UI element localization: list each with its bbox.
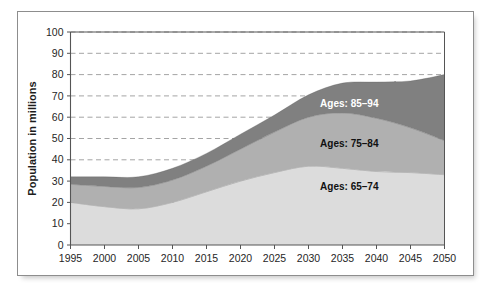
x-tick-label: 2035 <box>331 252 355 264</box>
y-tick-label: 50 <box>52 132 64 144</box>
x-tick-label: 2040 <box>365 252 389 264</box>
x-tick-label: 2005 <box>127 252 151 264</box>
series-label-3: Ages: 65–74 <box>320 181 379 192</box>
y-tick-label: 10 <box>52 217 64 229</box>
area-chart: 0102030405060708090100199520002005201020… <box>0 0 493 297</box>
plot-wrapper: 0102030405060708090100199520002005201020… <box>0 0 493 297</box>
series-label-2: Ages: 75–84 <box>320 138 379 149</box>
y-tick-label: 80 <box>52 68 64 80</box>
area-bands <box>71 75 445 245</box>
series-label-1: Ages: 85–94 <box>320 98 379 109</box>
figure-container: 0102030405060708090100199520002005201020… <box>0 0 493 297</box>
y-tick-label: 60 <box>52 111 64 123</box>
x-tick-label: 2015 <box>195 252 219 264</box>
x-tick-label: 2020 <box>229 252 253 264</box>
y-tick-label: 0 <box>58 239 64 251</box>
x-tick-label: 2045 <box>399 252 423 264</box>
x-tick-label: 2000 <box>93 252 117 264</box>
y-axis-title-text: Population in millions <box>26 81 38 195</box>
y-tick-label: 70 <box>52 90 64 102</box>
y-tick-label: 40 <box>52 153 64 165</box>
y-tick-label: 90 <box>52 47 64 59</box>
y-tick-label: 20 <box>52 196 64 208</box>
x-tick-label: 2050 <box>433 252 457 264</box>
x-tick-label: 2025 <box>263 252 287 264</box>
x-tick-label: 2010 <box>161 252 185 264</box>
x-tick-label: 2030 <box>297 252 321 264</box>
x-tick-label: 1995 <box>59 252 83 264</box>
y-axis-title: Population in millions <box>26 81 38 195</box>
y-tick-label: 100 <box>46 26 64 38</box>
y-tick-label: 30 <box>52 175 64 187</box>
